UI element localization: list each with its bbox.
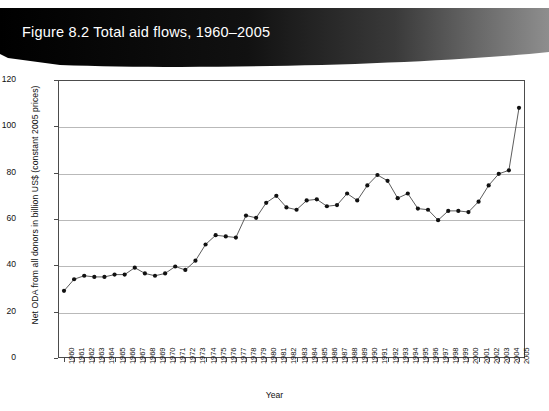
- x-tick-mark: [135, 358, 136, 362]
- x-tick-mark: [428, 358, 429, 362]
- data-point: [72, 277, 76, 281]
- data-point: [315, 197, 319, 201]
- x-tick-mark: [418, 358, 419, 362]
- figure-page: Figure 8.2 Total aid flows, 1960–2005 Ne…: [0, 0, 549, 411]
- y-tick-label: 0: [0, 352, 16, 362]
- data-point: [406, 191, 410, 195]
- x-tick-mark: [64, 358, 65, 362]
- x-tick-mark: [226, 358, 227, 362]
- x-tick-mark: [286, 358, 287, 362]
- data-point: [335, 203, 339, 207]
- x-tick-mark: [357, 358, 358, 362]
- data-point: [254, 216, 258, 220]
- x-tick-mark: [307, 358, 308, 362]
- data-point: [446, 209, 450, 213]
- x-tick-mark: [479, 358, 480, 362]
- x-tick-mark: [367, 358, 368, 362]
- data-point: [133, 266, 137, 270]
- data-point: [163, 271, 167, 275]
- y-tick-mark: [54, 173, 58, 174]
- series-line: [64, 108, 519, 291]
- x-tick-mark: [347, 358, 348, 362]
- x-tick-mark: [408, 358, 409, 362]
- data-point: [385, 179, 389, 183]
- data-point: [264, 201, 268, 205]
- series-points: [62, 106, 521, 293]
- x-tick-mark: [297, 358, 298, 362]
- y-tick-label: 80: [0, 167, 16, 177]
- data-point: [234, 235, 238, 239]
- data-point: [102, 275, 106, 279]
- x-tick-mark: [327, 358, 328, 362]
- x-tick-mark: [195, 358, 196, 362]
- x-axis-title: Year: [0, 390, 549, 400]
- x-tick-mark: [155, 358, 156, 362]
- x-tick-mark: [519, 358, 520, 362]
- x-tick-mark: [468, 358, 469, 362]
- data-point: [517, 106, 521, 110]
- data-point: [62, 289, 66, 293]
- y-tick-mark: [54, 80, 58, 81]
- x-tick-mark: [175, 358, 176, 362]
- data-point: [507, 168, 511, 172]
- x-tick-mark: [94, 358, 95, 362]
- x-tick-mark: [185, 358, 186, 362]
- x-tick-mark: [84, 358, 85, 362]
- y-tick-mark: [54, 358, 58, 359]
- data-point: [123, 273, 127, 277]
- data-point: [173, 264, 177, 268]
- data-point: [497, 172, 501, 176]
- x-tick-mark: [246, 358, 247, 362]
- data-point: [487, 183, 491, 187]
- y-tick-mark: [54, 126, 58, 127]
- data-point: [375, 173, 379, 177]
- x-tick-label: 2005: [522, 348, 531, 365]
- x-tick-mark: [398, 358, 399, 362]
- x-tick-mark: [206, 358, 207, 362]
- x-tick-mark: [216, 358, 217, 362]
- x-tick-mark: [165, 358, 166, 362]
- figure-title: Figure 8.2 Total aid flows, 1960–2005: [22, 24, 270, 40]
- data-point: [355, 198, 359, 202]
- chart-container: Net ODA from all donors in billion US$ (…: [0, 70, 549, 411]
- data-point: [92, 275, 96, 279]
- y-tick-label: 40: [0, 259, 16, 269]
- data-point: [214, 233, 218, 237]
- data-point: [183, 268, 187, 272]
- data-point: [274, 194, 278, 198]
- y-tick-mark: [54, 312, 58, 313]
- x-tick-mark: [317, 358, 318, 362]
- data-point: [436, 218, 440, 222]
- x-tick-mark: [104, 358, 105, 362]
- x-tick-mark: [438, 358, 439, 362]
- data-point: [112, 273, 116, 277]
- x-tick-mark: [276, 358, 277, 362]
- x-tick-mark: [489, 358, 490, 362]
- data-point: [244, 213, 248, 217]
- data-point: [203, 242, 207, 246]
- data-point: [325, 204, 329, 208]
- y-tick-label: 100: [0, 120, 16, 130]
- x-tick-mark: [236, 358, 237, 362]
- x-tick-mark: [458, 358, 459, 362]
- x-tick-mark: [499, 358, 500, 362]
- data-point: [345, 191, 349, 195]
- data-point: [476, 200, 480, 204]
- data-point: [153, 274, 157, 278]
- y-axis-title: Net ODA from all donors in billion US$ (…: [30, 60, 40, 350]
- x-tick-mark: [509, 358, 510, 362]
- x-tick-mark: [266, 358, 267, 362]
- figure-banner: Figure 8.2 Total aid flows, 1960–2005: [0, 8, 549, 70]
- data-point: [143, 271, 147, 275]
- y-tick-label: 60: [0, 213, 16, 223]
- data-point: [416, 206, 420, 210]
- x-tick-mark: [74, 358, 75, 362]
- data-point: [224, 234, 228, 238]
- y-tick-mark: [54, 219, 58, 220]
- data-point: [294, 208, 298, 212]
- data-point: [284, 205, 288, 209]
- x-tick-mark: [337, 358, 338, 362]
- data-point: [305, 198, 309, 202]
- x-tick-mark: [145, 358, 146, 362]
- y-tick-mark: [54, 265, 58, 266]
